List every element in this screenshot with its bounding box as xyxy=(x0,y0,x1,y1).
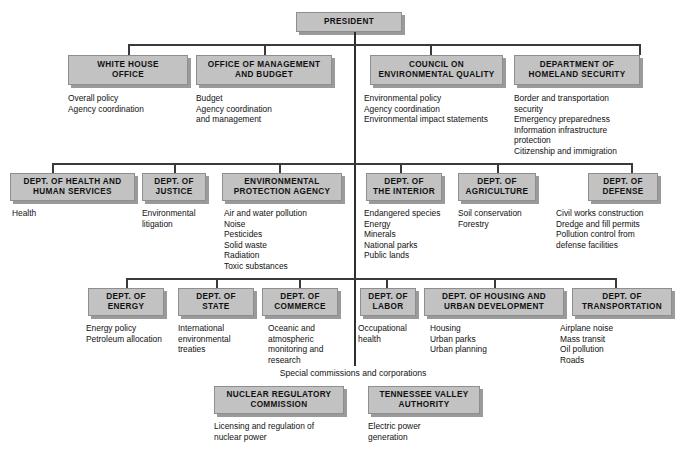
connector-row3-stem-epa xyxy=(279,163,281,173)
connector-row2-bar-left xyxy=(128,44,356,46)
node-interior-label: DEPT. OFTHE INTERIOR xyxy=(373,177,435,198)
connector-row3-bar-left xyxy=(52,163,356,165)
node-tva-desc: Electric power generation xyxy=(368,421,478,442)
node-transportation[interactable]: DEPT. OFTRANSPORTATION xyxy=(572,288,672,316)
node-president[interactable]: PRESIDENT xyxy=(296,12,402,32)
node-state-desc: International environmental treaties xyxy=(178,323,270,355)
node-commerce-desc: Oceanic and atmospheric monitoring and r… xyxy=(268,323,356,365)
node-transportation-label: DEPT. OFTRANSPORTATION xyxy=(582,292,662,313)
connector-row3-stem-agriculture xyxy=(497,163,499,173)
node-justice[interactable]: DEPT. OFJUSTICE xyxy=(142,173,206,201)
connector-row2-stem-ceq xyxy=(430,44,432,55)
node-dhs-desc: Border and transportation security Emerg… xyxy=(514,93,664,157)
node-ceq-desc: Environmental policy Agency coordination… xyxy=(364,93,514,125)
org-chart: PRESIDENT WHITE HOUSEOFFICE Overall poli… xyxy=(0,0,683,459)
node-omb-label: OFFICE OF MANAGEMENTAND BUDGET xyxy=(208,60,321,81)
node-hud[interactable]: DEPT. OF HOUSING ANDURBAN DEVELOPMENT xyxy=(424,288,564,316)
node-nrc-desc: Licensing and regulation of nuclear powe… xyxy=(214,421,374,442)
connector-row4-stem-transportation xyxy=(615,278,617,288)
node-commerce[interactable]: DEPT. OFCOMMERCE xyxy=(262,288,338,316)
node-interior-desc: Endangered species Energy Minerals Natio… xyxy=(364,208,464,261)
node-commerce-label: DEPT. OFCOMMERCE xyxy=(274,292,325,313)
connector-row4-stem-energy xyxy=(126,278,128,288)
node-state[interactable]: DEPT. OFSTATE xyxy=(178,288,254,316)
node-energy-label: DEPT. OFENERGY xyxy=(106,292,146,313)
node-tva[interactable]: TENNESSEE VALLEYAUTHORITY xyxy=(368,386,480,414)
node-hhs-label: DEPT. OF HEALTH ANDHUMAN SERVICES xyxy=(23,177,121,198)
node-nrc[interactable]: NUCLEAR REGULATORYCOMMISSION xyxy=(214,386,344,414)
node-epa-label: ENVIRONMENTALPROTECTION AGENCY xyxy=(234,177,331,198)
node-justice-label: DEPT. OFJUSTICE xyxy=(154,177,194,198)
connector-row2-stem-wh xyxy=(128,44,130,55)
node-dhs[interactable]: DEPARTMENT OFHOMELAND SECURITY xyxy=(514,55,640,85)
node-agriculture-label: DEPT. OFAGRICULTURE xyxy=(466,177,529,198)
node-agriculture-desc: Soil conservation Forestry xyxy=(458,208,553,229)
connector-row3-bar-right xyxy=(354,163,632,165)
connector-row3-stem-interior xyxy=(400,163,402,173)
node-energy[interactable]: DEPT. OFENERGY xyxy=(88,288,164,316)
node-interior[interactable]: DEPT. OFTHE INTERIOR xyxy=(366,173,442,201)
node-hud-desc: Housing Urban parks Urban planning xyxy=(430,323,550,355)
node-epa-desc: Air and water pollution Noise Pesticides… xyxy=(224,208,354,272)
connector-row4-bar-left xyxy=(126,278,356,280)
node-epa[interactable]: ENVIRONMENTALPROTECTION AGENCY xyxy=(222,173,342,201)
node-white-house-office-label: WHITE HOUSEOFFICE xyxy=(97,60,159,81)
connector-row3-stem-defense xyxy=(631,163,633,173)
node-hud-label: DEPT. OF HOUSING ANDURBAN DEVELOPMENT xyxy=(442,292,546,313)
node-state-label: DEPT. OFSTATE xyxy=(196,292,236,313)
connector-row4-bar-right xyxy=(354,278,616,280)
connector-row4-stem-state xyxy=(216,278,218,288)
special-commissions-caption: Special commissions and corporations xyxy=(183,368,523,379)
node-nrc-label: NUCLEAR REGULATORYCOMMISSION xyxy=(227,390,332,411)
connector-row2-stem-omb xyxy=(264,44,266,55)
connector-row3-stem-justice xyxy=(174,163,176,173)
node-agriculture[interactable]: DEPT. OFAGRICULTURE xyxy=(458,173,536,201)
connector-row4-stem-commerce xyxy=(299,278,301,288)
node-defense-label: DEPT. OFDEFENSE xyxy=(602,177,643,198)
node-ceq[interactable]: COUNCIL ONENVIRONMENTAL QUALITY xyxy=(370,55,503,85)
node-white-house-office[interactable]: WHITE HOUSEOFFICE xyxy=(68,55,188,85)
node-omb-desc: Budget Agency coordination and managemen… xyxy=(196,93,336,125)
node-dhs-label: DEPARTMENT OFHOMELAND SECURITY xyxy=(529,60,626,81)
connector-row2-stem-dhs xyxy=(639,44,641,55)
node-labor-label: DEPT. OFLABOR xyxy=(368,292,408,313)
node-white-house-office-desc: Overall policy Agency coordination xyxy=(68,93,188,114)
node-president-label: PRESIDENT xyxy=(324,17,374,28)
node-ceq-label: COUNCIL ONENVIRONMENTAL QUALITY xyxy=(378,60,494,81)
node-labor[interactable]: DEPT. OFLABOR xyxy=(360,288,416,316)
node-hhs[interactable]: DEPT. OF HEALTH ANDHUMAN SERVICES xyxy=(10,173,135,201)
node-justice-desc: Environmental litigation xyxy=(142,208,222,229)
node-defense-desc: Civil works construction Dredge and fill… xyxy=(556,208,681,250)
node-tva-label: TENNESSEE VALLEYAUTHORITY xyxy=(379,390,468,411)
node-hhs-desc: Health xyxy=(12,208,132,219)
connector-row3-stem-hhs xyxy=(52,163,54,173)
node-omb[interactable]: OFFICE OF MANAGEMENTAND BUDGET xyxy=(196,55,332,85)
node-labor-desc: Occupational health xyxy=(358,323,430,344)
connector-spine-main xyxy=(354,32,356,366)
node-transportation-desc: Airplane noise Mass transit Oil pollutio… xyxy=(560,323,670,365)
connector-row4-stem-hud xyxy=(494,278,496,288)
connector-row4-stem-labor xyxy=(386,278,388,288)
node-defense[interactable]: DEPT. OFDEFENSE xyxy=(588,173,658,201)
connector-row2-bar-right xyxy=(354,44,640,46)
